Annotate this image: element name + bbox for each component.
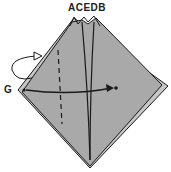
target-dot bbox=[114, 86, 118, 90]
g-dot bbox=[22, 88, 25, 91]
label-g: G bbox=[4, 84, 12, 95]
turn-over-arrow-head-icon bbox=[34, 52, 42, 60]
diagram-canvas bbox=[0, 0, 171, 172]
top-labels: ACEDB bbox=[68, 2, 106, 13]
